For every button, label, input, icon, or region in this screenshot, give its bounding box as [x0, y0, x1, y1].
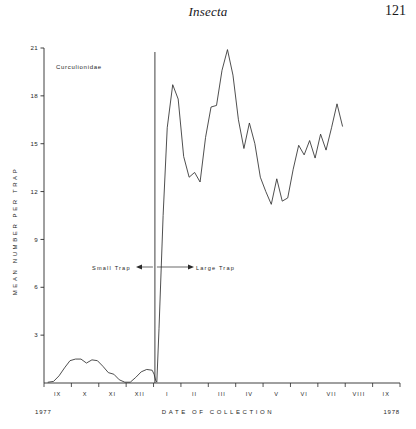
- arrow-right-head-icon: [188, 265, 194, 270]
- y-tick-label: 21: [31, 44, 39, 51]
- x-tick-label: IX: [54, 391, 62, 397]
- y-axis-title: MEAN NUMBER PER TRAP: [12, 167, 18, 296]
- x-tick-label: IX: [383, 391, 391, 397]
- line-chart: 21181512963 IXXXIXIIIIIIIIIVVVIVIIVIIIIX…: [0, 26, 416, 429]
- arrow-left-head-icon: [136, 265, 142, 270]
- y-tick-label: 12: [31, 188, 39, 195]
- x-tick-label: X: [83, 391, 88, 397]
- y-tick-label: 15: [31, 140, 39, 147]
- small-trap-label: Small Trap: [92, 265, 131, 271]
- year-end-label: 1978: [383, 409, 400, 415]
- y-tick-label: 9: [34, 236, 38, 243]
- axes-group: [44, 48, 400, 383]
- x-axis-ticks: IXXXIXIIIIIIIIIVVVIVIIVIIIIX: [44, 383, 400, 397]
- x-tick-label: VI: [300, 391, 308, 397]
- x-tick-label: II: [192, 391, 197, 397]
- taxon-label: Curculionidae: [56, 64, 102, 70]
- year-start-label: 1977: [35, 409, 52, 415]
- x-axis-title: DATE OF COLLECTION: [162, 409, 274, 415]
- figure-container: 21181512963 IXXXIXIIIIIIIIIVVVIVIIVIIIIX…: [0, 26, 416, 429]
- y-tick-label: 6: [34, 283, 38, 290]
- page-title: Insecta: [0, 4, 416, 20]
- y-tick-label: 18: [31, 92, 39, 99]
- x-tick-label: VIII: [353, 391, 366, 397]
- y-tick-label: 3: [34, 331, 38, 338]
- page-number: 121: [385, 3, 406, 19]
- data-line: [48, 50, 342, 383]
- trap-annotation-group: Small Trap Large Trap: [92, 265, 235, 271]
- x-tick-label: XI: [109, 391, 117, 397]
- x-tick-label: VII: [326, 391, 336, 397]
- x-tick-label: V: [274, 391, 279, 397]
- x-tick-label: IV: [246, 391, 254, 397]
- large-trap-label: Large Trap: [196, 265, 235, 271]
- page-header: Insecta 121: [0, 0, 416, 26]
- data-series-group: [48, 50, 342, 383]
- x-tick-label: I: [166, 391, 169, 397]
- x-tick-label: XII: [135, 391, 145, 397]
- y-axis-ticks: 21181512963: [31, 44, 44, 338]
- x-tick-label: III: [218, 391, 226, 397]
